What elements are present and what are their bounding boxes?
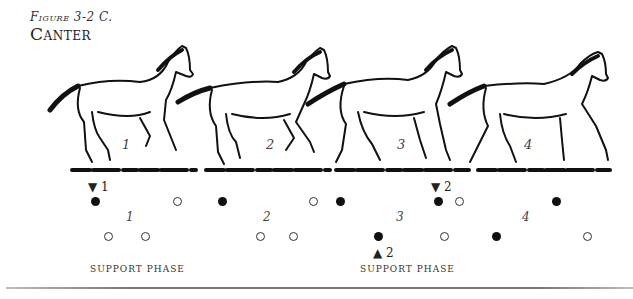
footfall-open-dot	[141, 232, 150, 241]
horse-number-3: 3	[397, 137, 405, 152]
horse-number-4: 4	[524, 137, 532, 152]
phase-number-3: 3	[396, 210, 404, 224]
support-phase-label-1: Support Phase	[90, 264, 185, 274]
lead-marker-3: ▲ 2	[373, 246, 394, 260]
marker-label: 2	[386, 246, 394, 260]
marker-label: 1	[101, 180, 109, 194]
phase-number-1: 1	[126, 210, 134, 224]
horse-illustrations	[30, 40, 630, 180]
horse-3-icon	[308, 46, 462, 162]
footfall-open-dot	[256, 232, 265, 241]
footfall-open-dot	[104, 232, 113, 241]
footfall-filled-dot	[218, 197, 227, 206]
horse-number-1: 1	[122, 137, 130, 152]
lead-marker-1: ▼ 1	[88, 180, 109, 194]
down-triangle-icon: ▼	[431, 180, 440, 194]
footfall-open-dot	[309, 197, 318, 206]
footfall-filled-dot	[492, 232, 501, 241]
phase-number-2: 2	[263, 210, 271, 224]
footfall-filled-dot	[552, 197, 561, 206]
support-phase-label-2: Support Phase	[360, 264, 455, 274]
up-triangle-icon: ▲	[373, 246, 382, 260]
footfall-open-dot	[289, 232, 298, 241]
lead-marker-2: ▼ 2	[431, 180, 452, 194]
horse-number-2: 2	[266, 137, 274, 152]
footfall-filled-dot	[336, 197, 345, 206]
phase-number-4: 4	[522, 210, 530, 224]
bottom-divider	[6, 287, 633, 289]
figure-label: Figure 3-2 C.	[30, 10, 113, 24]
footfall-filled-dot	[91, 197, 100, 206]
footfall-open-dot	[440, 232, 449, 241]
footfall-open-dot	[583, 232, 592, 241]
footfall-filled-dot	[374, 232, 383, 241]
footfall-open-dot	[173, 197, 182, 206]
footfall-open-dot	[455, 197, 464, 206]
footfall-filled-dot	[434, 197, 443, 206]
marker-label: 2	[444, 180, 452, 194]
down-triangle-icon: ▼	[88, 180, 97, 194]
